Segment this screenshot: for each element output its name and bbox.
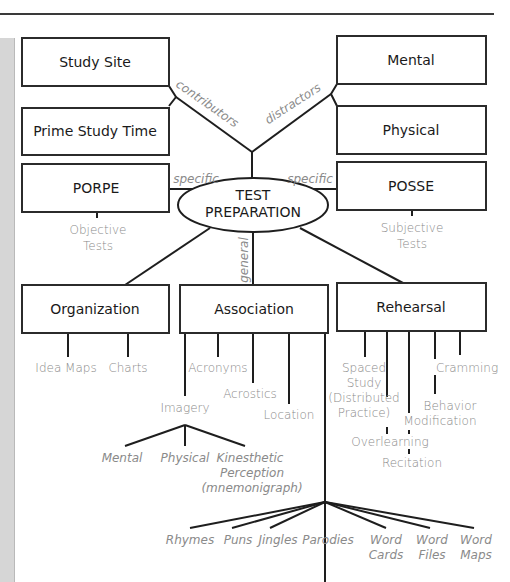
leaf-acrostics: Acrostics bbox=[223, 387, 277, 401]
leaf-parodies: Parodies bbox=[302, 533, 353, 547]
leaf-jingles: Jingles bbox=[256, 533, 297, 547]
box-label: Physical bbox=[383, 122, 440, 138]
leaf-spaced-4: Practice) bbox=[338, 406, 391, 420]
leaf-imagery: Imagery bbox=[160, 401, 209, 415]
box-label: POSSE bbox=[388, 178, 434, 194]
leaf-word-cards-2: Cards bbox=[369, 548, 404, 562]
box-rehearsal: Rehearsal bbox=[337, 283, 486, 331]
leaf-word-files-2: Files bbox=[418, 548, 445, 562]
test-preparation-diagram: Study Site Prime Study Time PORPE Mental… bbox=[0, 0, 510, 582]
box-label: Mental bbox=[387, 52, 435, 68]
edge-label-specific-right: specific bbox=[287, 172, 333, 186]
leaf-word-maps-1: Word bbox=[460, 533, 492, 547]
posse-sub-1: Subjective bbox=[381, 221, 444, 235]
leaf-cramming: Cramming bbox=[436, 361, 498, 375]
leaf-recitation: Recitation bbox=[382, 456, 442, 470]
leaf-spaced-2: Study bbox=[347, 376, 382, 390]
leaf-idea-maps: Idea Maps bbox=[35, 361, 96, 375]
box-organization: Organization bbox=[22, 285, 169, 333]
leaf-behavior-2: Modification bbox=[403, 414, 476, 428]
box-label: Organization bbox=[50, 301, 140, 317]
box-label: Association bbox=[214, 301, 294, 317]
leaf-puns: Puns bbox=[224, 533, 253, 547]
leaf-word-maps-2: Maps bbox=[460, 548, 492, 562]
edge-label-general: general bbox=[237, 237, 251, 283]
leaf-overlearning: Overlearning bbox=[351, 435, 428, 449]
center-line-1: TEST bbox=[235, 187, 271, 203]
leaf-kinesthetic-3: (mnemonigraph) bbox=[201, 481, 302, 495]
box-mental: Mental bbox=[337, 36, 486, 84]
leaf-behavior-1: Behavior bbox=[424, 399, 477, 413]
center-line-2: PREPARATION bbox=[205, 204, 301, 220]
leaf-spaced-1: Spaced bbox=[342, 361, 386, 375]
box-label: Rehearsal bbox=[376, 299, 445, 315]
edge-label-distractors: distractors bbox=[262, 80, 323, 127]
box-porpe: PORPE bbox=[22, 164, 169, 212]
leaf-word-files-1: Word bbox=[416, 533, 448, 547]
edge-label-contributors: contributors bbox=[173, 77, 241, 130]
box-label: Study Site bbox=[59, 54, 131, 70]
leaf-charts: Charts bbox=[108, 361, 147, 375]
box-label: PORPE bbox=[73, 180, 119, 196]
box-study-site: Study Site bbox=[22, 38, 169, 86]
leaf-imagery-physical: Physical bbox=[161, 451, 210, 465]
leaf-spaced-3: (Distributed bbox=[328, 391, 399, 405]
center-node-test-preparation: TEST PREPARATION bbox=[178, 178, 328, 232]
posse-sub-2: Tests bbox=[397, 237, 427, 251]
leaf-location: Location bbox=[264, 408, 315, 422]
leaf-rhymes: Rhymes bbox=[166, 533, 214, 547]
edge-label-specific-left: specific bbox=[173, 172, 219, 186]
box-prime-study-time: Prime Study Time bbox=[22, 108, 169, 155]
box-association: Association bbox=[180, 285, 328, 333]
leaf-imagery-mental: Mental bbox=[102, 451, 143, 465]
porpe-sub-2: Tests bbox=[83, 239, 113, 253]
box-label: Prime Study Time bbox=[33, 123, 157, 139]
leaf-kinesthetic-2: Perception bbox=[220, 466, 284, 480]
box-physical: Physical bbox=[337, 106, 486, 154]
leaf-kinesthetic-1: Kinesthetic bbox=[217, 451, 284, 465]
leaf-acronyms: Acronyms bbox=[188, 361, 247, 375]
porpe-sub-1: Objective bbox=[70, 223, 127, 237]
box-posse: POSSE bbox=[337, 162, 486, 210]
leaf-word-cards-1: Word bbox=[370, 533, 402, 547]
